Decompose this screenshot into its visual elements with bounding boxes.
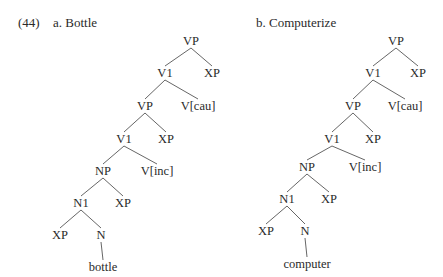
tree-edge: [103, 178, 123, 196]
tree-node-vp1: VP: [183, 34, 199, 48]
tree-node-xp4: XP: [258, 224, 274, 238]
tree-edge: [373, 80, 405, 99]
tree-node-xp3: XP: [321, 192, 337, 206]
tree-node-n: N: [300, 224, 309, 238]
tree-node-np: NP: [95, 164, 111, 178]
tree-node-v1a: V1: [365, 66, 380, 80]
tree-node-vp2: VP: [137, 99, 153, 113]
tree-edge: [191, 48, 212, 66]
tree-node-xp2: XP: [365, 132, 381, 146]
tree-edge: [396, 48, 418, 66]
tree-edge: [165, 80, 198, 99]
tree-edge: [287, 206, 305, 224]
tree-node-v1b: V1: [324, 132, 339, 146]
tree-edge: [332, 113, 353, 132]
tree-edge: [60, 210, 81, 228]
tree-node-vp2: VP: [345, 99, 361, 113]
tree-edge: [101, 242, 103, 260]
tree-node-n1: N1: [73, 196, 88, 210]
tree-edge: [165, 48, 191, 66]
tree-edge: [124, 113, 145, 132]
tree-edge: [266, 206, 287, 224]
tree-node-xp2: XP: [158, 132, 174, 146]
tree-node-vinc: V[inc]: [141, 164, 174, 178]
tree-edge: [124, 146, 157, 164]
tree-node-xp4: XP: [52, 228, 68, 242]
tree-node-xp1: XP: [204, 66, 220, 80]
tree-edge: [81, 210, 101, 228]
tree-edge: [145, 113, 166, 132]
tree-node-xp1: XP: [410, 66, 426, 80]
tree-node-n1: N1: [279, 192, 294, 206]
tree-node-vinc: V[inc]: [349, 160, 382, 174]
tree-edge: [305, 238, 307, 257]
tree-node-v1b: V1: [116, 132, 131, 146]
tree-edge: [332, 146, 365, 160]
tree-node-np: NP: [299, 160, 315, 174]
tree-node-leaf: bottle: [89, 260, 118, 274]
tree-edge: [287, 174, 307, 192]
tree-node-leaf: computer: [283, 257, 331, 271]
tree-edge: [145, 80, 165, 99]
tree-edge: [81, 178, 103, 196]
tree-edge: [353, 80, 373, 99]
tree-node-vcau: V[cau]: [181, 99, 216, 113]
tree-edge: [307, 174, 329, 192]
tree-edge: [373, 48, 396, 66]
tree-edge: [353, 113, 373, 132]
tree-node-vp1: VP: [388, 34, 404, 48]
syntax-trees: VPV1XPVPV[cau]V1XPNPV[inc]N1XPXPNbottleV…: [0, 0, 443, 277]
tree-node-vcau: V[cau]: [388, 99, 423, 113]
tree-edge: [307, 146, 332, 160]
tree-a: VPV1XPVPV[cau]V1XPNPV[inc]N1XPXPNbottle: [52, 34, 220, 274]
tree-node-v1a: V1: [157, 66, 172, 80]
tree-edge: [103, 146, 124, 164]
tree-b: VPV1XPVPV[cau]V1XPNPV[inc]N1XPXPNcompute…: [258, 34, 426, 271]
tree-node-xp3: XP: [115, 196, 131, 210]
tree-node-n: N: [96, 228, 105, 242]
